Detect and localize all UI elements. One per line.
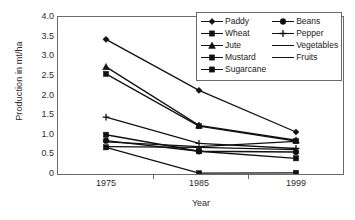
legend-item-mustard[interactable]: Mustard (201, 52, 266, 63)
y-tick-label: 3.0 (26, 50, 54, 60)
y-tick-label: 4.0 (26, 11, 54, 21)
x-tick-mark (153, 175, 154, 179)
y-axis-title: Production in mt/ha (14, 6, 24, 156)
legend-item-paddy[interactable]: Paddy (201, 16, 266, 27)
y-tick-label: 0.5 (26, 148, 54, 158)
y-tick-label: 1.0 (26, 129, 54, 139)
series-line (106, 74, 296, 141)
legend-label: Vegetables (296, 40, 338, 51)
data-point (103, 114, 110, 121)
legend-item-wheat[interactable]: Wheat (201, 28, 266, 39)
legend-label: Wheat (225, 28, 250, 39)
series-wheat (103, 71, 298, 143)
data-point (103, 132, 108, 137)
data-point (196, 87, 202, 93)
legend-marker-icon (272, 28, 294, 39)
x-tick-mark (248, 175, 249, 179)
legend-marker-icon (201, 28, 223, 39)
chart-legend: PaddyWheatJuteMustardSugarcaneBeansPeppe… (196, 12, 342, 81)
legend-column-1: PaddyWheatJuteMustardSugarcane (201, 16, 266, 75)
legend-marker-icon (201, 40, 223, 51)
data-point (293, 129, 299, 135)
legend-label: Mustard (225, 52, 256, 63)
y-tick-label: 2.5 (26, 70, 54, 80)
legend-column-2: BeansPepperVegetablesFruits (272, 16, 338, 75)
data-point (293, 170, 298, 174)
legend-label: Fruits (296, 52, 317, 63)
data-point (103, 36, 109, 42)
y-tick-label: 3.5 (26, 31, 54, 41)
x-tick-label: 1985 (169, 178, 229, 188)
legend-marker-icon (201, 64, 223, 75)
legend-label: Jute (225, 40, 241, 51)
legend-item-beans[interactable]: Beans (272, 16, 338, 27)
x-tick-label: 1975 (76, 178, 136, 188)
data-point (103, 145, 108, 150)
y-tick-label: 1.5 (26, 109, 54, 119)
legend-item-jute[interactable]: Jute (201, 40, 266, 51)
x-tick-label: 1999 (266, 178, 326, 188)
data-point (196, 171, 201, 174)
legend-columns: PaddyWheatJuteMustardSugarcaneBeansPeppe… (201, 16, 339, 75)
y-tick-label: 2.0 (26, 90, 54, 100)
legend-marker-icon (201, 16, 223, 27)
data-point (103, 138, 109, 144)
legend-label: Beans (296, 16, 320, 27)
legend-label: Pepper (296, 28, 323, 39)
legend-marker-icon (201, 52, 223, 63)
legend-label: Paddy (225, 16, 249, 27)
data-point (103, 63, 110, 69)
y-tick-label: 0 (26, 168, 54, 178)
x-axis-title: Year (57, 198, 345, 208)
legend-marker-icon (272, 40, 294, 51)
data-point (196, 148, 202, 154)
legend-marker-icon (272, 16, 294, 27)
chart-figure: Production in mt/ha 00.51.01.52.02.53.03… (0, 0, 355, 220)
legend-marker-icon (272, 52, 294, 63)
legend-label: Sugarcane (225, 64, 266, 75)
data-point (103, 71, 108, 76)
legend-item-vegetables[interactable]: Vegetables (272, 40, 338, 51)
data-point (293, 156, 298, 161)
legend-item-pepper[interactable]: Pepper (272, 28, 338, 39)
legend-item-fruits[interactable]: Fruits (272, 52, 338, 63)
legend-item-sugarcane[interactable]: Sugarcane (201, 64, 266, 75)
